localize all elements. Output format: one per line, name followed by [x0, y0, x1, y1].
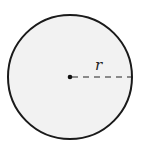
radius-label: r [95, 56, 103, 74]
center-point [68, 75, 73, 80]
circle-diagram: r [0, 0, 150, 141]
